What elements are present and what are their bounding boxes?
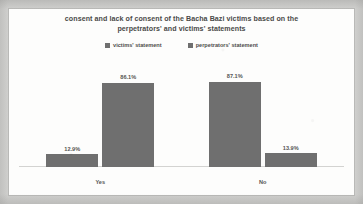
- bar-group-yes: 12.9% 86.1%: [19, 59, 182, 167]
- legend-item-perpetrators-statement[interactable]: perpetrators' statement: [188, 42, 258, 48]
- bar-yes-victims[interactable]: [46, 154, 98, 167]
- chart-title: consent and lack of consent of the Bacha…: [23, 15, 340, 34]
- chart-container: consent and lack of consent of the Bacha…: [8, 8, 355, 196]
- category-label-yes: Yes: [19, 179, 182, 185]
- legend-item-victims-statement[interactable]: victims' statement: [105, 42, 162, 48]
- legend-label-victims-statement: victims' statement: [113, 42, 162, 48]
- bar-groups: 12.9% 86.1% 87.1% 13.9%: [19, 59, 344, 167]
- legend-swatch-icon: [188, 43, 193, 48]
- bar-no-victims[interactable]: [209, 82, 261, 167]
- category-axis-labels: Yes No: [19, 179, 344, 185]
- bar-slot-no-victims: 87.1%: [209, 59, 261, 167]
- bar-value-label: 13.9%: [283, 145, 299, 151]
- scanned-page: consent and lack of consent of the Bacha…: [0, 0, 363, 204]
- bar-yes-perpetrators[interactable]: [102, 83, 154, 167]
- chart-legend: victims' statement perpetrators' stateme…: [9, 42, 354, 48]
- bar-slot-no-perpetrators: 13.9%: [265, 59, 317, 167]
- bar-group-no: 87.1% 13.9%: [182, 59, 345, 167]
- plot-area: 12.9% 86.1% 87.1% 13.9%: [19, 59, 344, 187]
- bar-value-label: 86.1%: [120, 74, 136, 80]
- chart-title-line-2: perpetrators' and victims' statements: [23, 25, 340, 35]
- bar-value-label: 87.1%: [227, 73, 243, 79]
- legend-swatch-icon: [105, 43, 110, 48]
- bar-value-label: 12.9%: [64, 146, 80, 152]
- legend-label-perpetrators-statement: perpetrators' statement: [196, 42, 258, 48]
- chart-title-line-1: consent and lack of consent of the Bacha…: [23, 15, 340, 25]
- bar-no-perpetrators[interactable]: [265, 153, 317, 167]
- category-label-no: No: [182, 179, 345, 185]
- bar-slot-yes-victims: 12.9%: [46, 59, 98, 167]
- bar-slot-yes-perpetrators: 86.1%: [102, 59, 154, 167]
